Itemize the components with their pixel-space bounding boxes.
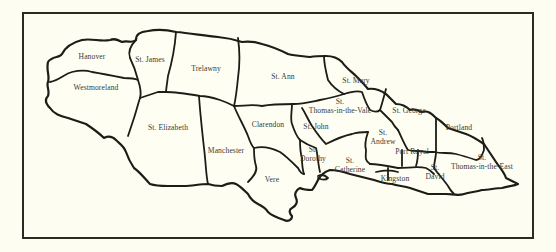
parish-label-portland: Portland (446, 123, 473, 132)
parish-label-clarendon: Clarendon (252, 120, 285, 129)
parish-label-manchester: Manchester (208, 146, 244, 155)
parish-label-port-royal: Port Royal (395, 147, 429, 156)
parish-label-st-thomas-in-the-vale: St. Thomas-in-the-Vale (309, 97, 372, 115)
parish-label-st-mary: St. Mary (342, 76, 369, 85)
parish-label-st-ann: St. Ann (271, 72, 295, 81)
parish-label-kingston: Kingston (381, 174, 410, 183)
parish-label-trelawny: Trelawny (191, 64, 221, 73)
parish-label-st-james: St. James (135, 55, 165, 64)
parish-label-st-john: St. John (303, 122, 328, 131)
parish-label-st-thomas-in-the-east: St. Thomas-in-the-East (451, 153, 513, 171)
parish-label-westmoreland: Westmoreland (74, 83, 119, 92)
parish-label-st-dorothy: St. Dorothy (300, 145, 326, 163)
parish-label-st-george: St. George (392, 106, 425, 115)
parish-label-vere: Vere (265, 175, 279, 184)
parish-label-st-catherine: St. Catherine (335, 156, 365, 174)
parish-label-hanover: Hanover (79, 52, 106, 61)
parish-label-st-elizabeth: St. Elizabeth (148, 123, 188, 132)
parish-label-st-david: St. David (425, 163, 444, 181)
parish-label-st-andrew: St. Andrew (370, 128, 395, 146)
